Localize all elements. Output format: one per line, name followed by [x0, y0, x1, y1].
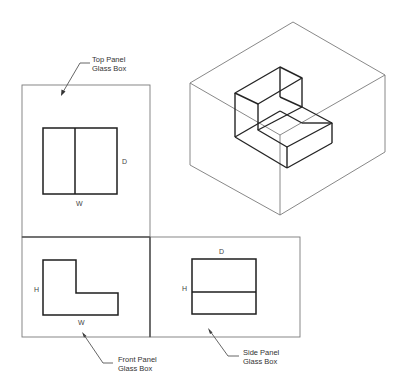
- glass-box-diagram: D W Top Panel Glass Box H W Front Panel …: [0, 0, 405, 392]
- front-panel-glass-box: [22, 237, 150, 337]
- side-panel-callout-line1: Side Panel: [243, 348, 280, 357]
- front-view-width-label: W: [78, 319, 85, 326]
- side-view-depth-label: D: [219, 248, 224, 255]
- side-panel-leader: [208, 328, 239, 356]
- top-panel-callout-line2: Glass Box: [92, 64, 126, 73]
- side-view-height-label: H: [182, 285, 187, 292]
- leader-arrow-icon: [61, 90, 66, 97]
- side-panel-callout-line2: Glass Box: [243, 357, 277, 366]
- top-view-width-label: W: [76, 200, 83, 207]
- isometric-glass-box: [190, 22, 385, 215]
- top-panel-callout-line1: Top Panel: [92, 55, 126, 64]
- top-panel-leader: [61, 63, 90, 96]
- front-panel-callout-line1: Front Panel: [118, 355, 157, 364]
- front-panel-callout-line2: Glass Box: [118, 364, 152, 373]
- side-panel-glass-box: [150, 237, 300, 337]
- front-view-height-label: H: [34, 286, 39, 293]
- top-panel-glass-box: [22, 85, 150, 237]
- top-view-object: [43, 128, 117, 194]
- top-view-depth-label: D: [122, 158, 127, 165]
- side-view-object: [192, 259, 256, 314]
- front-view-object: [43, 260, 118, 315]
